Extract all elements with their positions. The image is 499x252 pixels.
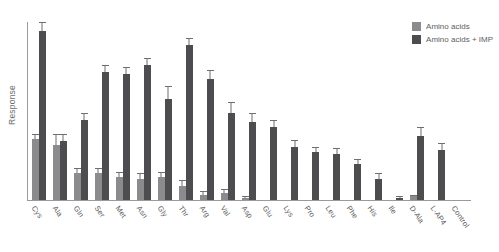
bar-group: [386, 22, 407, 200]
bar[interactable]: [312, 152, 319, 200]
bar-column: [452, 22, 459, 200]
bar[interactable]: [74, 173, 81, 200]
bar[interactable]: [116, 177, 123, 200]
bar[interactable]: [32, 139, 39, 200]
error-bar-cap: [291, 140, 298, 141]
x-tick-label-cell: Gln: [70, 202, 91, 252]
bar[interactable]: [60, 141, 67, 200]
x-tick-label: Lys: [282, 204, 296, 219]
bar-column: [368, 22, 375, 200]
bar-column: [354, 22, 361, 200]
bar-group: [175, 22, 196, 200]
bar[interactable]: [242, 198, 249, 200]
bar-column: [438, 22, 445, 200]
bar-column: [95, 22, 102, 200]
bar[interactable]: [39, 31, 46, 200]
bar-group: [238, 22, 259, 200]
bar[interactable]: [221, 193, 228, 200]
bar-column: [144, 22, 151, 200]
bar[interactable]: [144, 65, 151, 200]
bar[interactable]: [179, 186, 186, 200]
bar[interactable]: [417, 136, 424, 200]
bar-group: [449, 22, 470, 200]
bar-group: [154, 22, 175, 200]
bar-groups: [28, 22, 470, 200]
x-tick-label-cell: Cys: [28, 202, 49, 252]
y-axis-label: Response: [7, 50, 17, 160]
bar[interactable]: [165, 99, 172, 200]
bar[interactable]: [137, 179, 144, 200]
x-tick-label: Asn: [134, 204, 149, 220]
bar[interactable]: [249, 122, 256, 200]
x-tick-label: Met: [113, 204, 128, 220]
error-bar-cap: [354, 159, 361, 160]
x-tick-label-cell: Asn: [133, 202, 154, 252]
bar[interactable]: [186, 45, 193, 200]
bar-group: [217, 22, 238, 200]
bar-column: [249, 22, 256, 200]
error-bar-cap: [165, 86, 172, 87]
x-tick-label: Thr: [176, 204, 190, 219]
bar-group: [112, 22, 133, 200]
x-tick-label: Val: [219, 204, 232, 218]
x-tick-label-cell: Leu: [323, 202, 344, 252]
x-tick-label: Asp: [240, 204, 255, 220]
error-bar: [441, 143, 442, 150]
legend-item[interactable]: Amino acids: [412, 22, 493, 31]
bar-group: [365, 22, 386, 200]
bar[interactable]: [354, 164, 361, 200]
x-tick-label: Phe: [345, 204, 360, 220]
x-tick-label-cell: Phe: [344, 202, 365, 252]
bar[interactable]: [333, 154, 340, 200]
bar[interactable]: [200, 195, 207, 200]
error-bar: [63, 134, 64, 141]
x-tick-label-cell: Ser: [91, 202, 112, 252]
bar[interactable]: [81, 120, 88, 200]
x-tick-label: Control: [450, 204, 472, 230]
bar[interactable]: [207, 79, 214, 200]
bar[interactable]: [375, 179, 382, 200]
bar-column: [389, 22, 396, 200]
bar-chart-figure: Response CysAlaGlnSerMetAsnGlyThrArgValA…: [0, 0, 499, 252]
legend-item-label: Amino acids + IMP: [426, 35, 493, 44]
bar[interactable]: [410, 196, 417, 200]
error-bar-cap: [375, 173, 382, 174]
x-tick-label: Ser: [92, 204, 106, 219]
x-tick-label-cell: Arg: [196, 202, 217, 252]
bar[interactable]: [158, 177, 165, 200]
error-bar: [210, 70, 211, 79]
bar[interactable]: [95, 173, 102, 200]
bar-group: [344, 22, 365, 200]
bar[interactable]: [123, 74, 130, 200]
error-bar: [231, 102, 232, 113]
bar[interactable]: [53, 145, 60, 200]
bar-column: [305, 22, 312, 200]
error-bar-cap: [116, 172, 123, 173]
legend-item[interactable]: Amino acids + IMP: [412, 35, 493, 44]
bar-column: [74, 22, 81, 200]
error-bar-cap: [144, 58, 151, 59]
bar-group: [281, 22, 302, 200]
bar[interactable]: [291, 147, 298, 200]
error-bar-cap: [186, 38, 193, 39]
bar-group: [196, 22, 217, 200]
error-bar: [168, 86, 169, 98]
x-tick-label-cell: Asp: [238, 202, 259, 252]
x-tick-label-cell: Thr: [175, 202, 196, 252]
error-bar-cap: [312, 147, 319, 148]
x-tick-label-cell: Control: [449, 202, 470, 252]
error-bar-cap: [270, 120, 277, 121]
x-axis-tick-labels: CysAlaGlnSerMetAsnGlyThrArgValAspGluLysP…: [28, 202, 470, 252]
bar[interactable]: [396, 198, 403, 200]
error-bar-cap: [95, 168, 102, 169]
bar-column: [326, 22, 333, 200]
bar[interactable]: [438, 150, 445, 200]
chart-legend: Amino acidsAmino acids + IMP: [412, 22, 493, 44]
x-tick-label: Cys: [29, 204, 44, 220]
bar[interactable]: [228, 113, 235, 200]
bar[interactable]: [270, 127, 277, 200]
bar-column: [431, 22, 438, 200]
bar[interactable]: [102, 72, 109, 200]
bar-column: [123, 22, 130, 200]
bar-column: [53, 22, 60, 200]
